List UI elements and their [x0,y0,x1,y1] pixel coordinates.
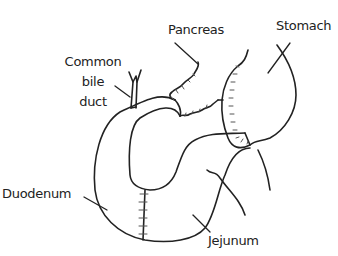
stomach-shape [218,45,296,148]
duodenum-loop-shape [94,97,250,242]
pancreas-shape [170,62,218,116]
anastomosis-suture [139,190,148,240]
pancreas-label: Pancreas [168,22,224,37]
stomach-label: Stomach [276,18,331,33]
whipple-diagram: Pancreas Stomach Common bile duct Duoden… [0,0,338,256]
anatomy-illustration [0,0,338,256]
duct-label: duct [58,94,128,109]
jejunum-label: Jejunum [208,233,259,248]
bile-label: bile [58,74,128,89]
duodenum-leader [84,197,107,210]
pancreas-leader [175,43,198,64]
common-label: Common [58,54,128,69]
jejunum-shape [207,150,270,215]
duodenum-label: Duodenum [2,186,71,201]
